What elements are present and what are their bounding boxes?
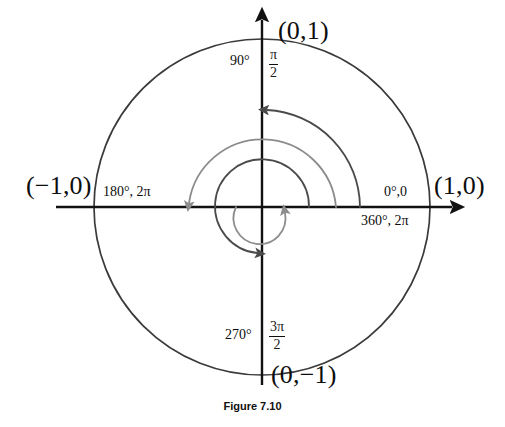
point-label-bottom: (0,−1) xyxy=(271,362,337,388)
figure-caption: Figure 7.10 xyxy=(0,400,505,412)
angle-label-270-radians: 3π 2 xyxy=(268,320,286,352)
unit-circle-diagram xyxy=(0,0,505,427)
point-label-left: (−1,0) xyxy=(26,173,92,199)
angle-label-360: 360°, 2π xyxy=(361,214,409,228)
angle-label-0: 0°,0 xyxy=(384,185,407,199)
point-label-right: (1,0) xyxy=(434,173,485,199)
angle-label-180: 180°, 2π xyxy=(103,185,151,199)
angle-label-90-degrees: 90° xyxy=(230,54,250,68)
fraction-denominator-270: 2 xyxy=(268,337,286,353)
figure-container: (0,1) (1,0) (−1,0) (0,−1) 90° π 2 180°, … xyxy=(0,0,505,427)
fraction-numerator-270: 3π xyxy=(268,320,286,336)
fraction-denominator-90: 2 xyxy=(268,65,279,81)
spiral-arc-outer xyxy=(267,110,360,207)
point-label-top: (0,1) xyxy=(278,18,329,44)
angle-label-90-radians: π 2 xyxy=(268,48,279,80)
fraction-numerator-90: π xyxy=(268,48,279,64)
spiral-arc-inner xyxy=(234,207,286,244)
angle-label-270-degrees: 270° xyxy=(225,328,252,342)
